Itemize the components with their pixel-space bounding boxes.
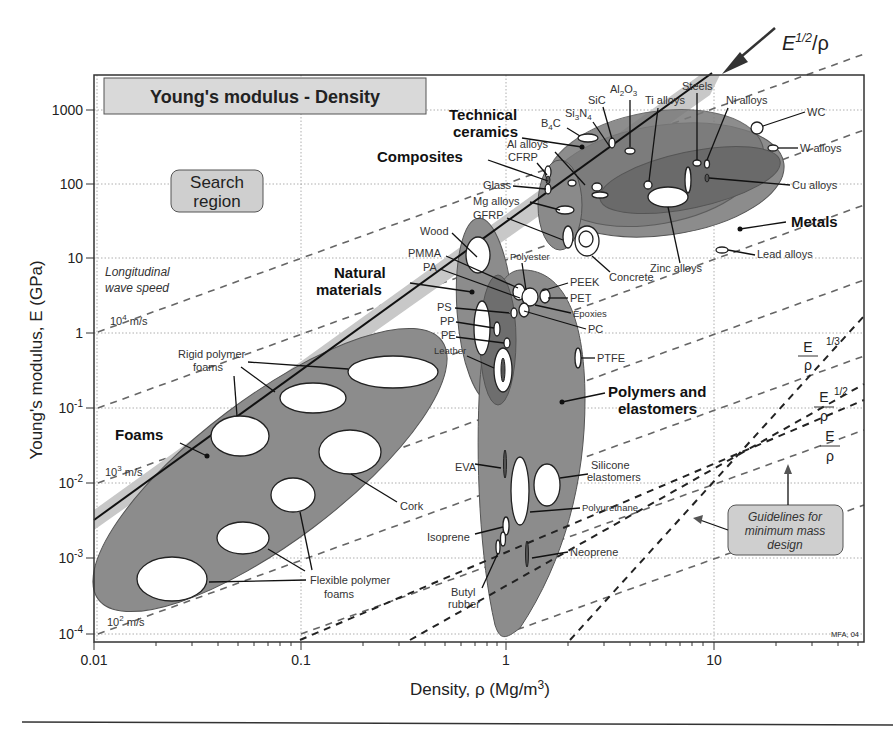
- credit: MFA, 04: [831, 630, 859, 639]
- label-butyl-2: rubber: [448, 598, 480, 610]
- label-rigid-foams-2: foams: [193, 361, 223, 373]
- svg-text:1/3: 1/3: [826, 336, 840, 347]
- label-pc: PC: [588, 323, 603, 335]
- search-region-line1: Search: [190, 173, 244, 192]
- x-axis-title: Density, ρ (Mg/m3): [410, 678, 550, 699]
- label-peek: PEEK: [570, 276, 600, 288]
- svg-text:E: E: [819, 389, 828, 405]
- family-metals: Metals: [791, 213, 838, 230]
- search-region-line2: region: [193, 192, 240, 211]
- x-axis: [94, 642, 858, 650]
- label-al2o3: Al2O3: [610, 83, 638, 98]
- svg-text:ρ: ρ: [820, 408, 828, 424]
- label-polyurethane: Polyurethane: [582, 502, 638, 513]
- label-pa: PA: [423, 261, 438, 273]
- wave-speed-1e4: 104 m/s: [110, 313, 148, 327]
- svg-text:E: E: [803, 339, 812, 355]
- label-cfrp: CFRP: [508, 151, 538, 163]
- guidelines-line1: Guidelines for: [748, 510, 823, 524]
- chart-title: Young's modulus - Density: [150, 87, 380, 107]
- x-tick-0.1: 0.1: [291, 652, 311, 668]
- y-axis-title: Young's modulus, E (GPa): [27, 260, 46, 459]
- x-tick-0.01: 0.01: [80, 652, 107, 668]
- y-tick-0.01: 10-2: [59, 473, 84, 491]
- family-polymers-1: Polymers and: [608, 383, 706, 400]
- family-natural-materials-2: materials: [316, 281, 382, 298]
- label-cu-alloys: Cu alloys: [792, 179, 838, 191]
- svg-text:ρ: ρ: [826, 448, 834, 464]
- label-isoprene: Isoprene: [427, 531, 470, 543]
- label-eva: EVA: [455, 461, 477, 473]
- label-w-alloys: W alloys: [800, 142, 842, 154]
- y-tick-10: 10: [67, 250, 83, 266]
- ashby-chart: 1000 100 10 1 10-1 10-2 10-3 10-4 0.01 0…: [0, 0, 893, 736]
- y-tick-0.001: 10-3: [59, 548, 84, 566]
- label-ptfe: PTFE: [597, 352, 625, 364]
- label-mg-alloys: Mg alloys: [473, 195, 520, 207]
- family-composites: Composites: [377, 148, 463, 165]
- label-pet: PET: [570, 292, 592, 304]
- wave-speed-1e2: 102 m/s: [107, 614, 145, 628]
- y-tick-1000: 1000: [52, 102, 83, 118]
- label-glass: Glass: [483, 179, 512, 191]
- wave-speed-label-2: wave speed: [105, 281, 169, 295]
- y-tick-0.1: 10-1: [59, 398, 84, 416]
- family-technical-ceramics-1: Technical: [449, 106, 517, 123]
- label-silicone-1: Silicone: [591, 459, 630, 471]
- wave-speed-1e3: 103 m/s: [105, 464, 143, 478]
- family-foams: Foams: [115, 426, 163, 443]
- index-label: E1/2/ρ: [782, 31, 829, 54]
- label-al-alloys: Al alloys: [507, 138, 548, 150]
- label-flex-foams-2: foams: [324, 588, 354, 600]
- index-arrow: [722, 28, 775, 74]
- y-tick-100: 100: [60, 176, 84, 192]
- label-cork: Cork: [400, 500, 424, 512]
- x-tick-1: 1: [502, 652, 510, 668]
- family-polymers-2: elastomers: [618, 400, 697, 417]
- label-polyester: Polyester: [510, 251, 550, 262]
- label-leather: Leather: [434, 345, 466, 356]
- label-sic: SiC: [588, 94, 606, 106]
- guidelines-line3: design: [767, 538, 803, 552]
- label-ps: PS: [437, 301, 452, 313]
- wave-speed-label-1: Longitudinal: [105, 265, 170, 279]
- label-concrete: Concrete: [609, 271, 654, 283]
- label-wc: WC: [807, 106, 825, 118]
- label-zinc-alloys: Zinc alloys: [650, 262, 702, 274]
- index-line: [94, 73, 712, 520]
- label-pmma: PMMA: [408, 247, 442, 259]
- y-tick-1: 1: [75, 325, 83, 341]
- label-silicone-2: elastomers: [587, 471, 641, 483]
- guideline-labels: E 1/3 ρ E 1/2 ρ E ρ: [798, 336, 848, 464]
- family-natural-materials-1: Natural: [334, 264, 386, 281]
- page-rule: [22, 722, 893, 725]
- label-butyl-1: Butyl: [451, 586, 475, 598]
- guidelines-line2: minimum mass: [745, 524, 826, 538]
- label-lead-alloys: Lead alloys: [757, 248, 813, 260]
- label-pe: PE: [441, 329, 456, 341]
- svg-text:ρ: ρ: [804, 357, 812, 373]
- label-flex-foams-1: Flexible polymer: [310, 574, 390, 586]
- svg-text:E: E: [825, 428, 834, 444]
- label-b4c: B4C: [541, 117, 561, 132]
- label-rigid-foams-1: Rigid polymer: [178, 348, 246, 360]
- y-axis: [86, 110, 94, 634]
- x-tick-10: 10: [706, 652, 722, 668]
- label-epoxies: Epoxies: [573, 308, 607, 319]
- label-wood: Wood: [420, 225, 449, 237]
- y-tick-0.0001: 10-4: [59, 624, 84, 642]
- label-gfrp: GFRP: [473, 209, 504, 221]
- label-ni-alloys: Ni alloys: [726, 94, 768, 106]
- label-steels: Steels: [682, 80, 713, 92]
- label-ti-alloys: Ti alloys: [645, 94, 685, 106]
- label-si3n4: Si3N4: [565, 107, 592, 122]
- label-pp: PP: [440, 315, 455, 327]
- svg-text:1/2: 1/2: [834, 386, 848, 397]
- label-neoprene: Neoprene: [570, 546, 618, 558]
